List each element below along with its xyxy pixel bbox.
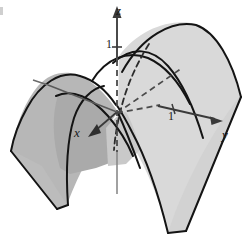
z-axis-label: z [116, 4, 121, 17]
x-axis-label: x [74, 126, 80, 139]
y-axis-label: y [222, 128, 228, 141]
figure-canvas: z y x 1 1 [0, 0, 249, 244]
y-axis-tick-label: 1 [168, 110, 174, 122]
saddle-surface-svg [0, 0, 249, 244]
z-axis-tick-label: 1 [106, 38, 112, 50]
